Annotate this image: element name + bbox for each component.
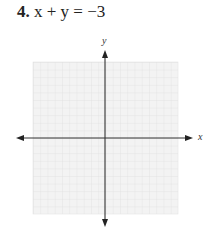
x-axis-left-arrow-icon bbox=[16, 135, 24, 141]
x-axis-label: x bbox=[198, 131, 202, 142]
coordinate-grid[interactable] bbox=[0, 0, 214, 231]
x-axis-right-arrow-icon bbox=[185, 135, 193, 141]
y-axis-up-arrow-icon bbox=[102, 50, 108, 58]
y-axis-label: y bbox=[102, 35, 106, 46]
y-axis-down-arrow-icon bbox=[102, 219, 108, 227]
